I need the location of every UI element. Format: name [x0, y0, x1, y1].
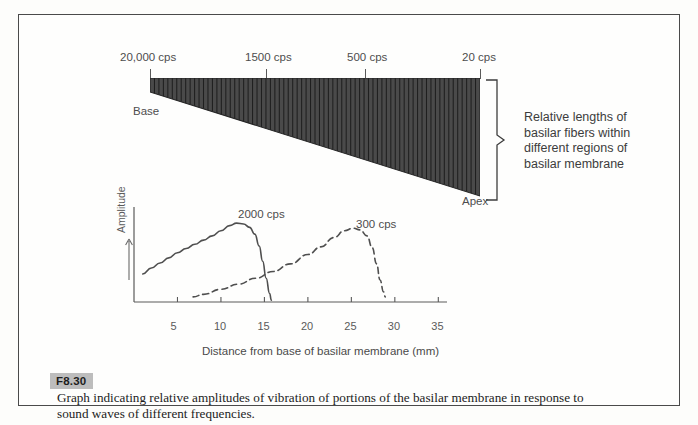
x-tick-label: 25 — [344, 320, 356, 332]
x-tick-label: 5 — [170, 320, 176, 332]
figure-frame: 20,000 cps 1500 cps 500 cps 20 cps — [18, 14, 680, 406]
chart-x-axis-label: Distance from base of basilar membrane (… — [202, 345, 439, 357]
figure-number-badge: F8.30 — [50, 373, 93, 389]
frequency-label-1500: 1500 cps — [245, 51, 292, 63]
figure-caption-line-1: Graph indicating relative amplitudes of … — [57, 390, 687, 406]
figure-caption: Graph indicating relative amplitudes of … — [57, 390, 687, 421]
curve-300-cps — [193, 228, 385, 297]
curve-annotation-2000cps: 2000 cps — [238, 208, 285, 220]
curve-annotation-300cps: 300 cps — [356, 218, 396, 230]
curve-2000-cps — [143, 223, 272, 300]
base-label: Base — [133, 105, 159, 117]
bracket-caption: Relative lengths of basilar fibers withi… — [524, 110, 630, 172]
x-tick-label: 20 — [301, 320, 313, 332]
bracket-caption-line-3: different regions of — [524, 141, 630, 157]
bracket-caption-line-2: basilar fibers within — [524, 126, 630, 142]
membrane-range-bracket — [484, 79, 506, 201]
x-tick-label: 35 — [431, 320, 443, 332]
frequency-label-500: 500 cps — [347, 51, 387, 63]
figure-page: 20,000 cps 1500 cps 500 cps 20 cps — [0, 0, 698, 425]
x-tick-label: 15 — [257, 320, 269, 332]
frequency-tick-20 — [480, 69, 481, 79]
chart-axes — [134, 207, 447, 302]
basilar-membrane-wedge — [150, 78, 480, 200]
chart-series — [143, 223, 386, 300]
bracket-caption-line-1: Relative lengths of — [524, 110, 630, 126]
amplitude-arrow-icon — [124, 237, 134, 281]
x-tick-label: 10 — [214, 320, 226, 332]
figure-caption-line-2: sound waves of different frequencies. — [57, 406, 687, 422]
x-tick-label: 30 — [388, 320, 400, 332]
frequency-label-20: 20 cps — [462, 51, 496, 63]
bracket-caption-line-4: basilar membrane — [524, 157, 630, 173]
chart-y-axis-label: Amplitude — [115, 186, 127, 233]
chart-plot-area — [124, 203, 449, 318]
frequency-label-20000: 20,000 cps — [120, 51, 176, 63]
